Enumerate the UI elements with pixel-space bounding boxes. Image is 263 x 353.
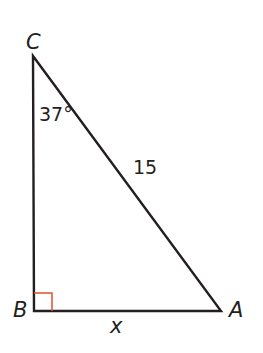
vertex-label-c: C [26,32,41,53]
triangle-shape [33,56,221,311]
hypotenuse-length-label: 15 [133,158,157,177]
angle-c-label: 37° [39,105,73,124]
side-x-label: x [110,316,122,337]
triangle-diagram: C B A 37° 15 x [0,0,263,353]
vertex-label-a: A [229,300,243,321]
right-angle-marker [34,293,52,311]
vertex-label-b: B [13,300,27,321]
